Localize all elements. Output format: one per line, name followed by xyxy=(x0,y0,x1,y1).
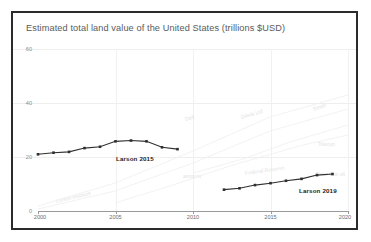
chart-inner: Estimated total land value of the United… xyxy=(13,13,356,228)
series-larson-2015 xyxy=(37,139,179,155)
chart-figure: Estimated total land value of the United… xyxy=(11,11,358,230)
series-label-larson-2015: Larson 2015 xyxy=(116,155,154,162)
series-label-larson-2019: Larson 2019 xyxy=(299,187,337,194)
series-layer xyxy=(13,13,356,228)
